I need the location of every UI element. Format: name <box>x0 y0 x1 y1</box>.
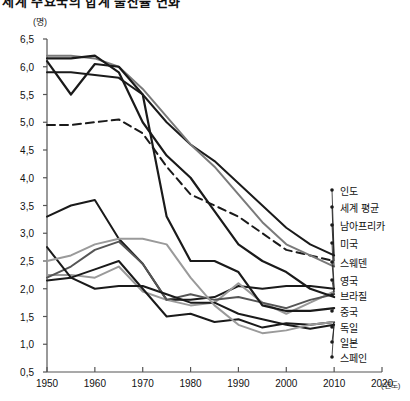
y-tick-3,5: 3,5 <box>8 200 34 211</box>
y-tick-5,0: 5,0 <box>8 117 34 128</box>
legend-item-독일: 독일 <box>340 320 358 335</box>
legend-item-인도: 인도 <box>340 183 358 198</box>
y-tick-0,5: 0,5 <box>8 367 34 378</box>
legend-item-세계 평균: 세계 평균 <box>340 200 379 215</box>
legend-item-일본: 일본 <box>340 335 358 350</box>
series-line-3 <box>47 200 334 300</box>
legend-item-영국: 영국 <box>340 273 358 288</box>
x-tick-1960: 1960 <box>75 378 115 389</box>
series-line-2 <box>47 56 334 267</box>
series-line-0 <box>47 72 334 255</box>
y-tick-6,5: 6,5 <box>8 34 34 45</box>
legend-item-스페인: 스페인 <box>340 350 367 365</box>
x-tick-1950: 1950 <box>27 378 67 389</box>
y-tick-2,5: 2,5 <box>8 256 34 267</box>
x-tick-2000: 2000 <box>266 378 306 389</box>
y-tick-3,0: 3,0 <box>8 228 34 239</box>
x-tick-1980: 1980 <box>171 378 211 389</box>
legend-item-브라질: 브라질 <box>340 288 367 303</box>
x-tick-1990: 1990 <box>218 378 258 389</box>
legend-item-스웨덴: 스웨덴 <box>340 255 367 270</box>
series-line-1 <box>47 119 334 261</box>
y-tick-6,0: 6,0 <box>8 61 34 72</box>
x-tick-2010: 2010 <box>314 378 354 389</box>
y-tick-1,5: 1,5 <box>8 311 34 322</box>
legend-item-중국: 중국 <box>340 304 358 319</box>
x-tick-2020: 2020 <box>362 378 402 389</box>
y-tick-5,5: 5,5 <box>8 89 34 100</box>
y-tick-4,0: 4,0 <box>8 172 34 183</box>
y-tick-1,0: 1,0 <box>8 339 34 350</box>
y-tick-4,5: 4,5 <box>8 145 34 156</box>
x-tick-1970: 1970 <box>123 378 163 389</box>
chart-container: 세계 주요국의 합계 출산율 변화 (명) (연도) 6,56,05,55,04… <box>0 0 410 401</box>
series-line-7 <box>47 61 334 311</box>
legend-item-남아프리카: 남아프리카 <box>340 218 385 233</box>
legend-item-미국: 미국 <box>340 236 358 251</box>
y-tick-2,0: 2,0 <box>8 283 34 294</box>
